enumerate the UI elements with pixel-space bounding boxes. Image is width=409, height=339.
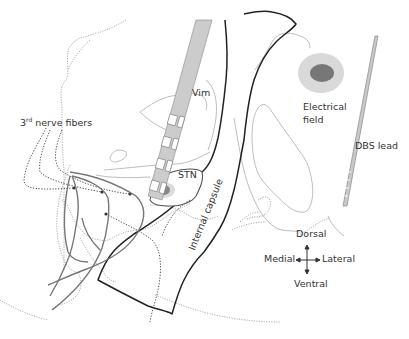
dbs-lead-standalone <box>343 36 378 206</box>
dbs-anatomy-diagram <box>0 0 409 339</box>
third-nerve-fibers-label: 3rd nerve fibers <box>20 118 92 128</box>
stn-label: STN <box>178 170 197 180</box>
orientation-compass <box>296 245 320 274</box>
orientation-lateral-label: Lateral <box>322 254 355 264</box>
nerve-arrowheads <box>72 186 131 215</box>
dbs-lead-label: DBS lead <box>355 141 398 151</box>
orientation-dorsal-label: Dorsal <box>296 229 326 239</box>
orientation-ventral-label: Ventral <box>294 279 328 289</box>
fiber-bundles <box>48 172 144 310</box>
electrical-field-illustration <box>298 53 344 93</box>
electrical-field-label-line2: field <box>303 115 324 125</box>
electrical-field-label-line1: Electrical <box>303 102 347 112</box>
lower-outlines <box>232 197 271 230</box>
vim-label: Vim <box>192 88 210 98</box>
orientation-medial-label: Medial <box>264 254 295 264</box>
nerve-suffix: nerve fibers <box>32 117 92 128</box>
